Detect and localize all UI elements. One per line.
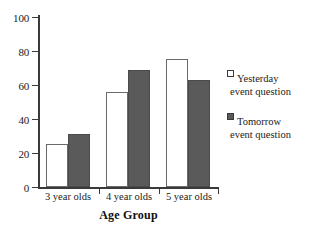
y-tick-label-20: 20 [18, 148, 29, 159]
x-axis-line [38, 187, 219, 189]
bar-tomorrow-4-year-olds [128, 70, 150, 187]
dark-square-icon [227, 113, 234, 120]
x-label-4-year-olds: 4 year olds [99, 192, 159, 203]
bar-tomorrow-3-year-olds [68, 134, 90, 187]
y-tick-60: 60 [32, 85, 39, 86]
y-tick-label-80: 80 [18, 46, 29, 57]
legend-entry-tomorrow: Tomorrow event question [227, 111, 315, 141]
y-tick-80: 80 [32, 51, 39, 52]
bar-yesterday-3-year-olds [46, 144, 68, 187]
legend-label-tomorrow-line1: Tomorrow [237, 116, 281, 127]
legend-entry-yesterday: Yesterday event question [227, 68, 315, 98]
bar-yesterday-4-year-olds [106, 92, 128, 187]
light-square-icon [227, 70, 234, 77]
y-tick-label-40: 40 [18, 114, 29, 125]
legend-label-yesterday: Yesterday event question [227, 73, 315, 98]
y-tick-label-0: 0 [24, 182, 29, 193]
legend-label-yesterday-line2: event question [227, 86, 315, 98]
legend: Yesterday event question Tomorrow event … [227, 68, 315, 153]
x-label-3-year-olds: 3 year olds [38, 192, 98, 203]
legend-label-tomorrow: Tomorrow event question [227, 116, 315, 141]
bar-chart: 100 80 60 40 20 0 3 year olds 4 year old… [0, 0, 316, 236]
legend-label-yesterday-line1: Yesterday [237, 73, 279, 84]
legend-label-tomorrow-line2: event question [227, 129, 315, 141]
y-tick-label-60: 60 [18, 80, 29, 91]
y-tick-20: 20 [32, 153, 39, 154]
y-axis-line [38, 15, 40, 189]
bar-tomorrow-5-year-olds [188, 80, 210, 187]
y-tick-100: 100 [32, 17, 39, 18]
x-axis-title: Age Group [38, 208, 219, 223]
y-tick-0: 0 [32, 187, 39, 188]
x-label-5-year-olds: 5 year olds [159, 192, 219, 203]
y-tick-label-100: 100 [13, 12, 29, 23]
bar-yesterday-5-year-olds [166, 59, 188, 187]
y-tick-40: 40 [32, 119, 39, 120]
